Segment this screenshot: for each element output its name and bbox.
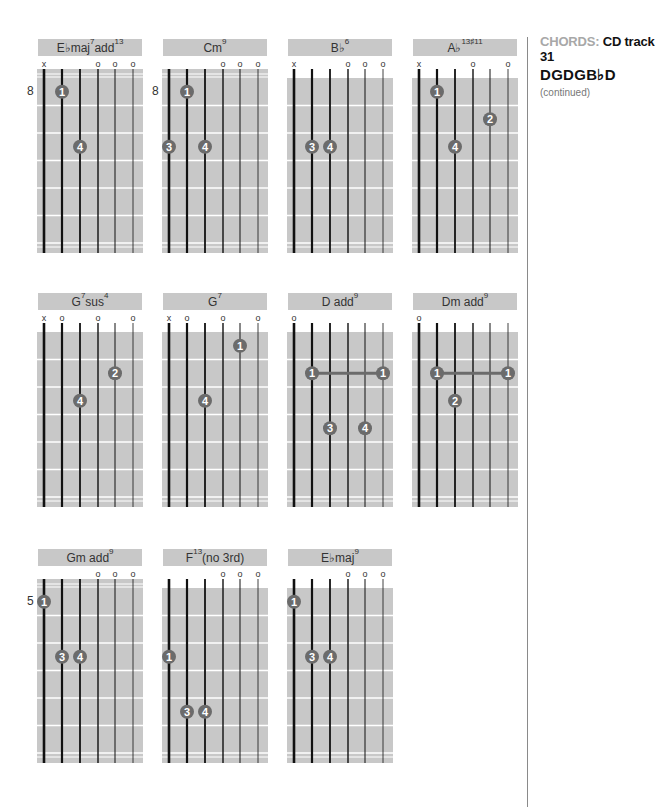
open-string-marker: o — [220, 59, 225, 69]
svg-text:1: 1 — [166, 651, 172, 663]
open-string-marker: o — [184, 313, 189, 323]
finger-dot: 1 — [233, 339, 247, 353]
open-string-marker: o — [291, 313, 296, 323]
finger-dot: 3 — [305, 140, 319, 154]
open-string-marker: o — [130, 313, 135, 323]
svg-text:3: 3 — [309, 651, 315, 663]
svg-text:4: 4 — [327, 141, 334, 153]
open-string-marker: o — [380, 59, 385, 69]
fretboard-grid: 134 — [287, 579, 393, 763]
finger-dot: 4 — [448, 140, 462, 154]
chord-name: Cm9 — [163, 39, 267, 56]
finger-dot: 4 — [73, 394, 87, 408]
open-muted-markers: ooo — [37, 569, 143, 579]
svg-text:3: 3 — [309, 141, 315, 153]
open-muted-markers: xooo — [37, 59, 143, 69]
finger-dot: 1 — [37, 595, 51, 609]
open-muted-markers: xooo — [287, 59, 393, 69]
finger-dot: 3 — [323, 421, 337, 435]
open-string-marker: o — [112, 59, 117, 69]
svg-text:1: 1 — [184, 86, 190, 98]
open-muted-markers: xoo — [412, 59, 518, 69]
fret-position-label: 8 — [152, 84, 159, 98]
svg-text:1: 1 — [380, 367, 386, 379]
open-muted-markers: o — [287, 313, 393, 323]
finger-dot: 1 — [55, 85, 69, 99]
finger-dot: 4 — [198, 394, 212, 408]
finger-dot: 1 — [305, 366, 319, 380]
open-muted-markers: ooo — [287, 569, 393, 579]
svg-text:4: 4 — [202, 141, 209, 153]
fretboard-grid: 134 — [37, 579, 143, 763]
svg-text:1: 1 — [237, 340, 243, 352]
open-string-marker: o — [112, 569, 117, 579]
open-string-marker: o — [220, 569, 225, 579]
muted-string-marker: x — [42, 59, 47, 69]
open-string-marker: o — [95, 313, 100, 323]
open-string-marker: o — [505, 59, 510, 69]
fretboard-grid: 134 — [162, 579, 268, 763]
open-muted-markers: ooo — [162, 569, 268, 579]
fretboard-grid: 124 — [412, 69, 518, 253]
svg-text:1: 1 — [309, 367, 315, 379]
svg-text:4: 4 — [77, 395, 84, 407]
open-string-marker: o — [470, 59, 475, 69]
fretboard-grid: 1134 — [287, 323, 393, 507]
chord-name: A♭13♯11 — [413, 39, 517, 56]
muted-string-marker: x — [42, 313, 47, 323]
svg-text:4: 4 — [202, 706, 209, 718]
finger-dot: 4 — [323, 650, 337, 664]
finger-dot: 1 — [376, 366, 390, 380]
svg-text:4: 4 — [77, 141, 84, 153]
svg-text:4: 4 — [77, 651, 84, 663]
open-string-marker: o — [255, 59, 260, 69]
chord-name: G7sus4 — [38, 293, 142, 310]
muted-string-marker: x — [417, 59, 422, 69]
open-string-marker: o — [237, 59, 242, 69]
continued-note: (continued) — [540, 87, 660, 98]
finger-dot: 1 — [430, 85, 444, 99]
open-muted-markers: o — [412, 313, 518, 323]
sidebar: CHORDS: CD track 31 DGDGB♭D (continued) — [540, 34, 660, 98]
svg-text:3: 3 — [184, 706, 190, 718]
finger-dot: 3 — [305, 650, 319, 664]
open-string-marker: o — [95, 59, 100, 69]
open-string-marker: o — [255, 569, 260, 579]
finger-dot: 4 — [198, 705, 212, 719]
tuning-label: DGDGB♭D — [540, 66, 660, 84]
svg-text:1: 1 — [41, 596, 47, 608]
svg-text:1: 1 — [505, 367, 511, 379]
finger-dot: 1 — [287, 595, 301, 609]
category-label: CHORDS: — [540, 34, 599, 49]
fretboard-grid: 24 — [37, 323, 143, 507]
finger-dot: 2 — [483, 112, 497, 126]
chord-name: E♭maj9 — [288, 549, 392, 566]
open-muted-markers: xooo — [37, 313, 143, 323]
svg-text:4: 4 — [452, 141, 459, 153]
svg-text:1: 1 — [59, 86, 65, 98]
finger-dot: 4 — [73, 140, 87, 154]
sidebar-heading: CHORDS: CD track 31 — [540, 34, 660, 64]
finger-dot: 1 — [180, 85, 194, 99]
finger-dot: 4 — [323, 140, 337, 154]
fret-position-label: 5 — [27, 594, 34, 608]
finger-dot: 2 — [448, 394, 462, 408]
fretboard-grid: 14 — [37, 69, 143, 253]
finger-dot: 1 — [162, 650, 176, 664]
fretboard-grid: 112 — [412, 323, 518, 507]
open-string-marker: o — [130, 59, 135, 69]
open-string-marker: o — [130, 569, 135, 579]
fretboard-grid: 34 — [287, 69, 393, 253]
chord-name: G7 — [163, 293, 267, 310]
open-string-marker: o — [220, 313, 225, 323]
open-muted-markers: ooo — [162, 59, 268, 69]
fretboard-grid: 134 — [162, 69, 268, 253]
open-string-marker: o — [255, 313, 260, 323]
finger-dot: 3 — [180, 705, 194, 719]
open-string-marker: o — [237, 569, 242, 579]
svg-text:2: 2 — [487, 113, 493, 125]
finger-dot: 1 — [501, 366, 515, 380]
muted-string-marker: x — [167, 313, 172, 323]
open-string-marker: o — [380, 569, 385, 579]
finger-dot: 4 — [198, 140, 212, 154]
